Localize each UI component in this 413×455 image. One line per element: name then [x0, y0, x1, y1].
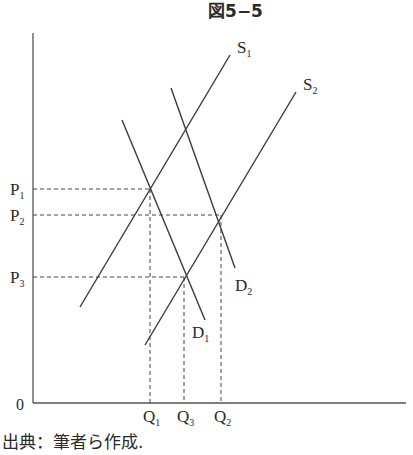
p2-label: P2 [10, 206, 24, 227]
s1-label: S1 [237, 38, 251, 59]
q3-label: Q3 [177, 407, 194, 428]
d1-label: D1 [192, 323, 209, 344]
p3-label: P3 [10, 268, 24, 289]
d2-label: D2 [235, 276, 252, 297]
s2-label: S2 [303, 75, 317, 96]
source-caption: 出典：筆者ら作成. [2, 428, 143, 453]
demand-curve-d2 [171, 88, 235, 268]
origin-label: 0 [16, 396, 24, 413]
supply-curve-s1 [80, 55, 230, 307]
p1-label: P1 [10, 180, 24, 201]
q2-label: Q2 [214, 407, 231, 428]
quantity-guides [150, 189, 221, 403]
supply-demand-diagram: S1 S2 D1 D2 P1 P2 P3 0 Q1 Q3 Q2 [0, 0, 413, 455]
q1-label: Q1 [143, 407, 160, 428]
